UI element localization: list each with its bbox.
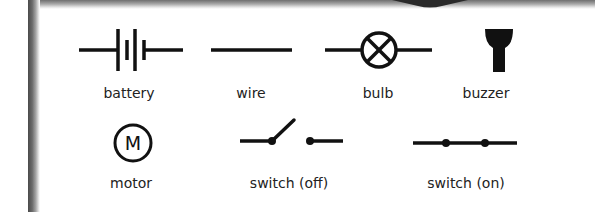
label-switch-on: switch (on): [427, 175, 505, 191]
label-battery: battery: [103, 85, 154, 101]
bulb-icon: [325, 33, 432, 67]
label-buzzer: buzzer: [463, 85, 510, 101]
pointer-chevron-icon: [392, 0, 468, 8]
label-motor: motor: [110, 175, 152, 191]
buzzer-icon: [485, 29, 513, 72]
switch-open-icon: [240, 120, 343, 145]
motor-icon: M: [115, 125, 151, 161]
battery-icon: [79, 29, 183, 71]
switch-closed-icon: [413, 139, 517, 147]
motor-letter: M: [125, 132, 141, 154]
label-bulb: bulb: [363, 85, 394, 101]
label-switch-off: switch (off): [250, 175, 328, 191]
label-wire: wire: [236, 85, 265, 101]
circuit-symbols-diagram: M battery wire bulb buzzer motor switch …: [0, 0, 595, 212]
